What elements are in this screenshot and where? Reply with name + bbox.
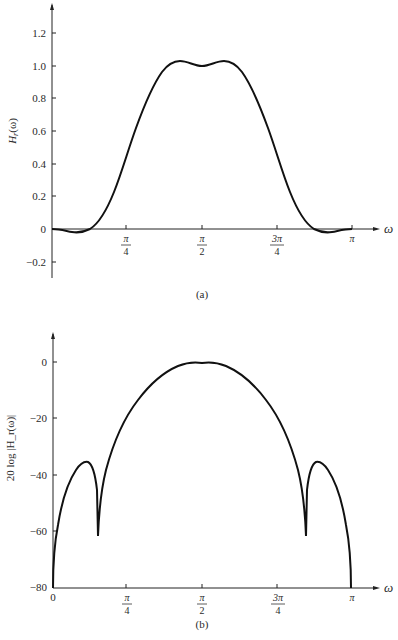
panel-b: ω 0 −20 −40 −60 −80 20 log |H_r(ω)| 0 π (4, 332, 393, 631)
y-tick-label: −40 (30, 469, 48, 481)
x-tick-pi-over-4: π 4 (121, 233, 131, 257)
caption-b: (b) (196, 618, 209, 631)
x-tick-3pi-over-4: 3π 4 (271, 592, 285, 616)
svg-text:4: 4 (276, 605, 281, 616)
y-tick-label: 1.0 (32, 60, 46, 72)
svg-text:π: π (123, 233, 129, 244)
svg-text:4: 4 (124, 246, 129, 257)
y-axis-arrow-icon (50, 3, 54, 10)
x-axis-label-a: ω (384, 221, 393, 236)
y-tick-label: −80 (30, 581, 48, 593)
svg-text:4: 4 (125, 605, 130, 616)
x-tick-pi: π (349, 233, 355, 244)
x-tick-3pi-over-4: 3π 4 (270, 233, 284, 257)
x-axis-arrow-icon (373, 586, 380, 590)
y-tick-label: 1.2 (32, 27, 46, 39)
x-tick-pi-over-4: π 4 (122, 592, 132, 616)
y-tick-label: 0.4 (32, 158, 46, 170)
svg-text:π: π (199, 233, 205, 244)
caption-a: (a) (196, 288, 209, 301)
x-tick-pi-over-2: π 2 (197, 233, 207, 257)
x-axis-arrow-icon (373, 227, 380, 231)
y-axis-title-a: Hr(ω) (6, 118, 20, 145)
y-tick-label: 0 (41, 223, 47, 235)
svg-text:2: 2 (200, 246, 205, 257)
y-tick-label: −0.2 (26, 256, 46, 268)
svg-text:3π: 3π (272, 592, 284, 603)
y-tick-label: 0.2 (32, 190, 46, 202)
figure: ω 1.2 1.0 0.8 0.6 0.4 0.2 0 −0.2 Hr(ω) (0, 0, 398, 640)
y-tick-label: 0 (42, 356, 48, 368)
svg-text:π: π (124, 592, 130, 603)
y-tick-label: 0.6 (32, 125, 46, 137)
y-tick-label: −20 (30, 412, 48, 424)
svg-text:Hr(ω): Hr(ω) (6, 118, 20, 145)
svg-text:3π: 3π (271, 233, 283, 244)
x-ticks-a: π 4 π 2 3π 4 π (121, 225, 355, 257)
x-ticks-b: 0 π 4 π 2 3π 4 π (50, 584, 355, 616)
y-axis-title-b: 20 log |H_r(ω)| (4, 415, 17, 482)
x-tick-zero: 0 (50, 591, 56, 603)
y-axis-arrow-icon (51, 332, 55, 339)
log-magnitude-curve-b (53, 362, 351, 588)
panel-a: ω 1.2 1.0 0.8 0.6 0.4 0.2 0 −0.2 Hr(ω) (6, 3, 393, 301)
x-tick-pi-over-2: π 2 (197, 592, 207, 616)
svg-text:2: 2 (200, 605, 205, 616)
svg-text:π: π (199, 592, 205, 603)
x-axis-label-b: ω (384, 580, 393, 595)
svg-text:4: 4 (275, 246, 280, 257)
magnitude-response-curve-a (52, 61, 352, 232)
y-tick-label: −60 (30, 525, 48, 537)
svg-text:20 log |H_r(ω)|: 20 log |H_r(ω)| (4, 415, 17, 482)
x-tick-pi: π (349, 592, 355, 603)
y-tick-label: 0.8 (32, 92, 46, 104)
